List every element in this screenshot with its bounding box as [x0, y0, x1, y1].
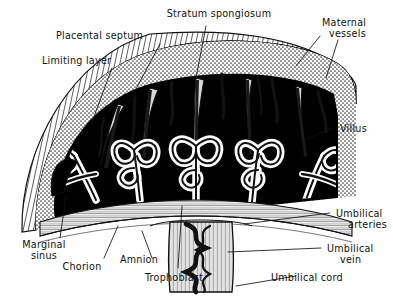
placenta-diagram: Stratum spongiosum Maternal vessels Plac…: [0, 0, 393, 303]
label-placental-septum: Placental septum: [56, 30, 143, 41]
label-marginal-sinus-line2: sinus: [31, 250, 57, 261]
label-umbilical-vein-line2: vein: [340, 254, 361, 265]
leader-umbilical-vein: [228, 248, 321, 252]
leader-chorion: [104, 226, 118, 258]
label-villus: Villus: [340, 123, 367, 134]
label-umbilical-arteries-line2: arteries: [348, 219, 387, 230]
label-maternal-vessels-line2: vessels: [329, 28, 366, 39]
label-stratum-spongiosum: Stratum spongiosum: [167, 8, 272, 19]
label-marginal-sinus-line1: Marginal: [22, 239, 65, 250]
label-amnion: Amnion: [120, 254, 158, 265]
label-trophoblast: Trophoblast: [144, 272, 203, 283]
label-umbilical-vein-line1: Umbilical: [327, 243, 374, 254]
label-chorion: Chorion: [63, 261, 102, 272]
label-maternal-vessels-line1: Maternal: [322, 17, 366, 28]
label-umbilical-arteries-line1: Umbilical: [336, 208, 383, 219]
label-umbilical-cord: Umbilical cord: [271, 272, 343, 283]
label-limiting-layer: Limiting layer: [42, 55, 111, 66]
